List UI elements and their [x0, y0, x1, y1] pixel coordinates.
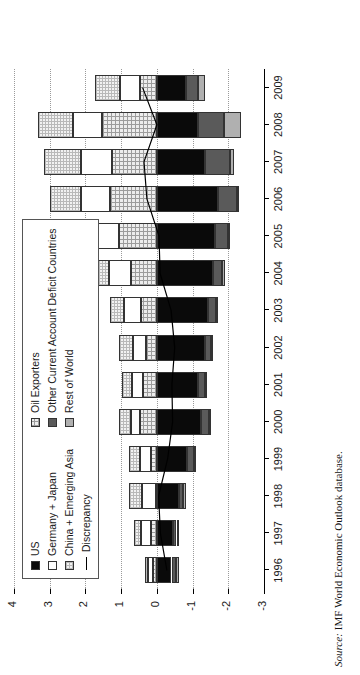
x-axis-tick — [264, 272, 269, 273]
bar-segment-cea — [122, 372, 132, 398]
light-grid-swatch — [65, 561, 74, 570]
legend-item-discrepancy: Discrepancy — [80, 449, 92, 570]
gridline — [228, 69, 229, 589]
bar-segment-us — [157, 186, 218, 212]
bar-segment-row — [224, 112, 241, 138]
bar-segment-row — [209, 409, 211, 435]
y-axis-tick — [157, 589, 158, 594]
bar-segment-oil — [146, 335, 157, 361]
white-swatch — [48, 561, 57, 570]
legend-item-cea: China + Emerging Asia — [63, 449, 75, 570]
x-axis-tick — [264, 161, 269, 162]
bar-segment-oil — [102, 112, 157, 138]
bar-segment-ocad — [215, 223, 229, 249]
bar-segment-row — [177, 520, 179, 546]
bar-segment-us — [157, 557, 172, 583]
bar-segment-ocad — [198, 112, 225, 138]
bar-segment-gj — [124, 297, 141, 323]
legend-column-1: USGermany + JapanChina + Emerging AsiaDi… — [29, 449, 92, 570]
legend-item-label: Germany + Japan — [46, 472, 58, 556]
bar-segment-oil — [141, 297, 157, 323]
gridline — [14, 69, 15, 589]
bar-segment-gj — [81, 149, 112, 175]
bar-segment-cea — [38, 112, 73, 138]
x-axis-tick — [264, 421, 269, 422]
bar-segment-us — [157, 520, 173, 546]
bar-segment-us — [157, 149, 206, 175]
bar-segment-row — [176, 557, 179, 583]
bar-segment-cea — [129, 446, 140, 472]
legend-item-gj: Germany + Japan — [46, 449, 58, 570]
bar-segment-us — [157, 409, 201, 435]
bar-segment-row — [216, 297, 218, 323]
chart-legend: USGermany + JapanChina + Emerging AsiaDi… — [22, 219, 99, 579]
bar-segment-row — [230, 149, 234, 175]
legend-item-label: Other Current Account Deficit Countries — [46, 228, 58, 412]
bar-segment-row — [198, 75, 206, 101]
bar-segment-us — [157, 446, 187, 472]
legend-column-2: Oil ExportersOther Current Account Defic… — [29, 228, 92, 426]
legend-item-row: Rest of World — [63, 228, 75, 426]
bar-segment-row — [205, 372, 207, 398]
x-axis-tick — [264, 347, 269, 348]
bar-segment-oil — [143, 372, 157, 398]
y-axis-tick — [228, 589, 229, 594]
bar-segment-gj — [148, 557, 154, 583]
bar-segment-ocad — [218, 186, 237, 212]
bar-segment-row — [211, 335, 213, 361]
bar-segment-gj — [73, 112, 102, 138]
bar-segment-gj — [132, 372, 143, 398]
y-axis-tick — [14, 589, 15, 594]
bar-segment-oil — [131, 260, 157, 286]
bar-segment-gj — [120, 75, 140, 101]
y-axis-tick — [264, 589, 265, 594]
bar-segment-row — [194, 446, 196, 472]
bar-segment-us — [157, 372, 198, 398]
bar-segment-ocad — [187, 446, 194, 472]
source-label: Source: — [332, 633, 344, 667]
bar-segment-us — [157, 335, 205, 361]
x-axis-tick — [264, 198, 269, 199]
y-axis-tick — [85, 589, 86, 594]
y-axis-tick — [193, 589, 194, 594]
bar-segment-oil — [119, 223, 157, 249]
source-text: IMF World Economic Outlook database. — [332, 451, 344, 630]
bar-segment-us — [157, 75, 186, 101]
bar-segment-us — [157, 483, 180, 509]
bar-segment-oil — [110, 186, 156, 212]
bar-segment-row — [228, 223, 230, 249]
legend-item-us: US — [29, 449, 41, 570]
y-axis-tick-label: -1 — [185, 601, 197, 641]
x-axis-tick-label: 2009 — [272, 65, 284, 111]
bar-segment-row — [237, 186, 239, 212]
y-axis-tick — [121, 589, 122, 594]
bar-segment-gj — [131, 409, 140, 435]
y-axis-tick-label: 0 — [149, 601, 161, 641]
y-axis-tick-label: 2 — [77, 601, 89, 641]
bar-segment-cea — [95, 75, 120, 101]
bar-segment-oil — [140, 75, 157, 101]
bar-segment-oil — [140, 409, 157, 435]
x-axis-tick — [264, 495, 269, 496]
x-axis-tick — [264, 309, 269, 310]
legend-item-oil: Oil Exporters — [29, 228, 41, 426]
dark-grey-swatch — [48, 418, 57, 427]
x-axis-tick — [264, 458, 269, 459]
chart-canvas: 43210-1-2-319961997199819992000200120022… — [0, 0, 360, 675]
y-axis-tick-label: -2 — [220, 601, 232, 641]
grey-swatch — [65, 418, 74, 427]
line-swatch — [86, 557, 87, 570]
bar-segment-us — [157, 260, 213, 286]
bar-segment-cea — [129, 483, 142, 509]
bar-segment-us — [157, 297, 208, 323]
bar-segment-us — [157, 112, 198, 138]
legend-item-label: China + Emerging Asia — [63, 449, 75, 556]
y-axis-tick — [50, 589, 51, 594]
bar-segment-gj — [140, 446, 151, 472]
gridline — [193, 69, 194, 589]
bar-segment-cea — [134, 520, 142, 546]
x-axis-tick — [264, 124, 269, 125]
bar-segment-us — [157, 223, 215, 249]
y-axis-tick-label: -3 — [256, 601, 268, 641]
bar-segment-row — [222, 260, 225, 286]
